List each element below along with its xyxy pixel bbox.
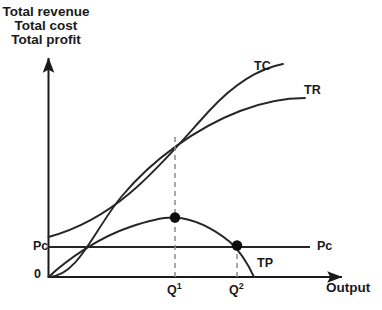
curve-label-tc: TC [254, 60, 271, 73]
x-tick-label-q1-base: Q [167, 283, 177, 297]
origin-label: 0 [34, 268, 41, 281]
curve-label-tp: TP [257, 257, 273, 270]
axis-label-pc-right: Pc [317, 240, 332, 253]
pc-intersection-point-marker [232, 240, 242, 250]
profit-maximising-point-marker [170, 212, 180, 222]
x-tick-label-q2-base: Q [229, 283, 239, 297]
plot-canvas [0, 0, 382, 310]
total-cost-curve [49, 64, 284, 237]
x-axis-title: Output [326, 281, 370, 295]
curve-label-tr: TR [304, 84, 321, 97]
x-tick-label-q1: Q1 [167, 282, 182, 297]
x-tick-label-q2: Q2 [229, 282, 244, 297]
total-revenue-curve [49, 98, 306, 277]
economics-diagram-total-revenue-cost-profit: Total revenue Total cost Total profit Pc… [0, 0, 382, 310]
x-tick-label-q1-superscript: 1 [177, 281, 182, 291]
x-tick-label-q2-superscript: 2 [239, 281, 244, 291]
axis-label-pc-left: Pc [33, 240, 48, 253]
